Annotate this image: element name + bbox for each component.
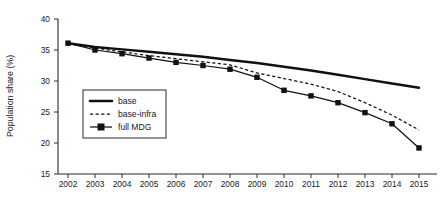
- data-point-marker: [119, 51, 124, 56]
- data-point-marker: [65, 40, 70, 45]
- legend-label-base: base: [118, 96, 137, 106]
- x-tick-label: 2009: [248, 179, 267, 189]
- y-tick-label: 25: [41, 107, 51, 117]
- x-tick-label: 2002: [59, 179, 78, 189]
- data-point-marker: [281, 88, 286, 93]
- data-point-marker: [335, 100, 340, 105]
- x-tick-label: 2014: [383, 179, 402, 189]
- data-point-marker: [227, 67, 232, 72]
- data-point-marker: [173, 60, 178, 65]
- legend: base base-infra full MDG: [83, 90, 166, 138]
- x-tick-label: 2004: [113, 179, 132, 189]
- y-axis-title: Population share (%): [5, 55, 15, 137]
- x-tick-label: 2011: [302, 179, 320, 189]
- y-tick-label: 15: [41, 169, 51, 179]
- y-tick-label: 35: [41, 45, 51, 55]
- x-axis-ticks: 2002200320042005200620072008200920102011…: [59, 174, 429, 189]
- y-tick-label: 30: [41, 76, 51, 86]
- y-tick-label: 20: [41, 138, 51, 148]
- legend-label-full-mdg: full MDG: [118, 122, 152, 132]
- data-point-marker: [92, 47, 97, 52]
- line-chart-svg: Population share (%) 152025303540 200220…: [0, 0, 447, 203]
- x-tick-label: 2010: [275, 179, 294, 189]
- y-axis-ticks: 152025303540: [41, 14, 58, 179]
- data-point-marker: [200, 63, 205, 68]
- data-point-marker: [389, 121, 394, 126]
- x-tick-label: 2013: [356, 179, 375, 189]
- y-axis-title-group: Population share (%): [5, 55, 15, 137]
- x-tick-label: 2008: [221, 179, 240, 189]
- x-tick-label: 2012: [329, 179, 348, 189]
- data-point-marker: [254, 75, 259, 80]
- x-tick-label: 2005: [140, 179, 159, 189]
- x-tick-label: 2003: [86, 179, 105, 189]
- chart-figure: Population share (%) 152025303540 200220…: [0, 0, 447, 203]
- x-tick-label: 2007: [194, 179, 213, 189]
- x-tick-label: 2015: [410, 179, 429, 189]
- data-point-marker: [416, 145, 421, 150]
- data-point-marker: [308, 93, 313, 98]
- y-tick-label: 40: [41, 14, 51, 24]
- data-point-marker: [362, 110, 367, 115]
- data-point-marker: [146, 55, 151, 60]
- x-tick-label: 2006: [167, 179, 186, 189]
- legend-label-base-infra: base-infra: [118, 109, 156, 119]
- legend-swatch-full-mdg-marker: [98, 124, 105, 131]
- series-line-base: [68, 43, 419, 88]
